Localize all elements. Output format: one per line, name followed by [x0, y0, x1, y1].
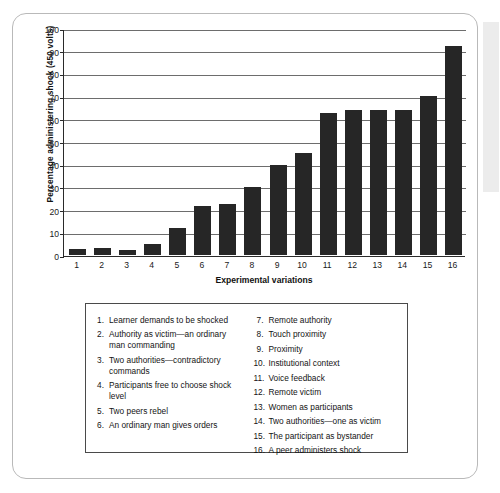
x-tick-label: 9 — [265, 260, 290, 270]
bar-10 — [295, 153, 312, 255]
y-tick-mark — [60, 30, 64, 31]
y-tick-label: 50 — [49, 139, 59, 149]
legend-item-number: 11. — [254, 373, 269, 384]
legend-item-label: Learner demands to be shocked — [109, 315, 242, 326]
legend-item: 1.Learner demands to be shocked — [94, 315, 242, 326]
x-tick-label: 10 — [290, 260, 315, 270]
y-tick-label: 30 — [49, 184, 59, 194]
legend-item-number: 7. — [254, 315, 269, 326]
bar-11 — [320, 113, 337, 255]
legend-item: 7.Remote authority — [254, 315, 402, 326]
y-tick-label: 90 — [49, 48, 59, 58]
y-tick-mark — [60, 166, 64, 167]
x-axis-title: Experimental variations — [63, 275, 465, 285]
legend-item-label: Touch proximity — [269, 329, 402, 340]
y-tick-mark — [60, 234, 64, 235]
legend-item-number: 2. — [94, 329, 109, 351]
y-tick-label: 20 — [49, 207, 59, 217]
legend-item-label: An ordinary man gives orders — [109, 420, 242, 431]
legend-item-number: 15. — [254, 431, 269, 442]
legend-item-number: 9. — [254, 344, 269, 355]
legend-item-label: Voice feedback — [269, 373, 402, 384]
x-tick-label: 6 — [189, 260, 214, 270]
legend-item-number: 12. — [254, 387, 269, 398]
legend-item: 8.Touch proximity — [254, 329, 402, 340]
bar-14 — [395, 110, 412, 255]
bar-slot — [366, 29, 391, 255]
y-tick-mark — [60, 143, 64, 144]
bar-4 — [144, 244, 161, 255]
legend-item-number: 6. — [94, 420, 109, 431]
bar-slot — [215, 29, 240, 255]
legend-item-label: Participants free to choose shock level — [109, 380, 242, 402]
x-tick-label: 2 — [89, 260, 114, 270]
bar-2 — [94, 248, 111, 255]
y-tick-mark — [60, 52, 64, 53]
legend-item: 6.An ordinary man gives orders — [94, 420, 242, 431]
legend-item: 10.Institutional context — [254, 358, 402, 369]
bar-12 — [345, 110, 362, 255]
legend-item-label: Two authorities—contradictory commands — [109, 355, 242, 377]
legend-column-left: 1.Learner demands to be shocked2.Authori… — [94, 315, 242, 444]
bar-chart-figure: Percentage administering shock (450 volt… — [12, 13, 478, 479]
legend-item-label: Remote victim — [269, 387, 402, 398]
bar-slot — [291, 29, 316, 255]
x-tick-label: 12 — [340, 260, 365, 270]
x-tick-label: 4 — [139, 260, 164, 270]
legend-item: 14.Two authorities—one as victim — [254, 416, 402, 427]
legend-item-number: 3. — [94, 355, 109, 377]
legend-item-number: 16. — [254, 445, 269, 456]
bar-slot — [165, 29, 190, 255]
legend-item-number: 4. — [94, 380, 109, 402]
bar-13 — [370, 110, 387, 255]
legend-item: 16.A peer administers shock — [254, 445, 402, 456]
legend-item-number: 13. — [254, 402, 269, 413]
bar-slot — [341, 29, 366, 255]
y-tick-label: 70 — [49, 93, 59, 103]
legend-item-number: 10. — [254, 358, 269, 369]
bar-3 — [119, 250, 136, 255]
legend-item-label: Proximity — [269, 344, 402, 355]
plot-area: 0102030405060708090100 — [63, 30, 465, 257]
bars-layer — [65, 29, 466, 255]
y-tick-label: 0 — [54, 252, 59, 262]
bar-5 — [169, 228, 186, 255]
x-tick-label: 16 — [440, 260, 465, 270]
bar-8 — [244, 187, 261, 255]
y-tick-mark — [60, 98, 64, 99]
x-tick-label: 11 — [315, 260, 340, 270]
legend-item: 15.The participant as bystander — [254, 431, 402, 442]
legend-item: 12.Remote victim — [254, 387, 402, 398]
y-tick-mark — [60, 211, 64, 212]
legend-item: 9.Proximity — [254, 344, 402, 355]
legend-item-label: A peer administers shock — [269, 445, 402, 456]
x-tick-label: 5 — [164, 260, 189, 270]
x-tick-label: 7 — [214, 260, 239, 270]
legend-item-label: Two authorities—one as victim — [269, 416, 402, 427]
x-tick-label: 1 — [64, 260, 89, 270]
bar-7 — [219, 204, 236, 255]
y-tick-label: 60 — [49, 116, 59, 126]
legend-box: 1.Learner demands to be shocked2.Authori… — [85, 303, 408, 453]
x-tick-label: 8 — [239, 260, 264, 270]
bar-slot — [190, 29, 215, 255]
legend-item-label: Two peers rebel — [109, 406, 242, 417]
y-tick-label: 40 — [49, 161, 59, 171]
legend-item-label: Institutional context — [269, 358, 402, 369]
legend-item: 5.Two peers rebel — [94, 406, 242, 417]
legend-item: 3.Two authorities—contradictory commands — [94, 355, 242, 377]
y-tick-label: 10 — [49, 229, 59, 239]
bar-slot — [441, 29, 466, 255]
x-tick-label: 14 — [390, 260, 415, 270]
bar-slot — [90, 29, 115, 255]
legend-item-label: Authority as victim—an ordinary man comm… — [109, 329, 242, 351]
legend-item-label: Remote authority — [269, 315, 402, 326]
x-tick-label: 3 — [114, 260, 139, 270]
legend-item-label: Women as participants — [269, 402, 402, 413]
bar-slot — [115, 29, 140, 255]
legend-item-number: 1. — [94, 315, 109, 326]
y-tick-label: 80 — [49, 70, 59, 80]
y-tick-label: 100 — [45, 25, 59, 35]
legend-item: 4.Participants free to choose shock leve… — [94, 380, 242, 402]
legend-item: 2.Authority as victim—an ordinary man co… — [94, 329, 242, 351]
